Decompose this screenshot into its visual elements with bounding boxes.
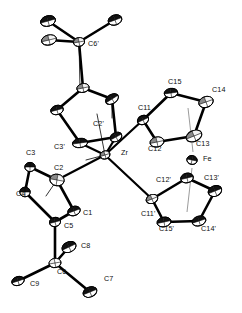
atom-label-C12: C12 [148, 144, 162, 153]
atom-label-C7: C7 [104, 274, 113, 283]
atom-label-C6p: C6' [88, 39, 99, 48]
atom-label-C15p: C15' [159, 224, 174, 233]
atom-label-C2p: C2' [93, 119, 104, 128]
atom-label-C2: C2 [54, 163, 63, 172]
thermal-ellipsoid-C3 [25, 162, 35, 171]
atom-label-C13: C13 [196, 139, 210, 148]
atom-label-Fe: Fe [203, 154, 212, 163]
atom-label-C11: C11 [138, 103, 151, 112]
atom-label-C12p: C12' [156, 175, 171, 184]
atom-label-C5p: C5' [0, 0, 11, 2]
atom-label-C5: C5 [64, 221, 73, 230]
atom-label-C4: C4 [16, 189, 25, 198]
ortep-figure: ZrFeC1C2C3C4C5C6C7C8C9C1'C2'C3'C4'C5'C6'… [0, 0, 242, 313]
atom-label-C9: C9 [30, 279, 39, 288]
atom-label-C8: C8 [81, 241, 90, 250]
atom-label-C3: C3 [26, 148, 35, 157]
atom-label-C11p: C11' [141, 209, 156, 218]
crystal-structure-canvas: ZrFeC1C2C3C4C5C6C7C8C9C1'C2'C3'C4'C5'C6'… [0, 0, 242, 313]
atom-label-C14p: C14' [201, 224, 216, 233]
atom-label-C14: C14 [212, 85, 226, 94]
atom-label-C3p: C3' [54, 142, 65, 151]
atom-label-Zr: Zr [121, 148, 128, 157]
atom-label-C15: C15 [168, 77, 182, 86]
atom-label-C1: C1 [83, 208, 92, 217]
atom-label-C6: C6 [57, 267, 66, 276]
atom-label-C13p: C13' [204, 173, 219, 182]
